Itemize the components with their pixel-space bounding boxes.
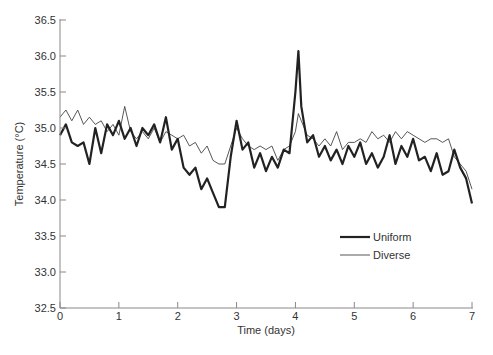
y-tick-label: 36.5 bbox=[35, 14, 56, 26]
legend-label-diverse: Diverse bbox=[373, 249, 410, 261]
x-tick-label: 4 bbox=[292, 310, 298, 322]
y-axis-title: Temperature (°C) bbox=[13, 122, 25, 206]
y-tick-label: 33.5 bbox=[35, 230, 56, 242]
x-tick-label: 5 bbox=[351, 310, 357, 322]
y-tick-label: 34.5 bbox=[35, 158, 56, 170]
x-tick-label: 3 bbox=[234, 310, 240, 322]
x-tick-label: 0 bbox=[57, 310, 63, 322]
y-tick-label: 36.0 bbox=[35, 50, 56, 62]
x-tick-label: 6 bbox=[410, 310, 416, 322]
temperature-line-chart: 32.533.033.534.034.535.035.536.036.5 012… bbox=[0, 0, 493, 355]
x-ticks: 01234567 bbox=[57, 302, 475, 322]
x-tick-label: 7 bbox=[469, 310, 475, 322]
x-tick-label: 1 bbox=[116, 310, 122, 322]
legend-label-uniform: Uniform bbox=[373, 231, 412, 243]
y-tick-label: 35.0 bbox=[35, 122, 56, 134]
y-tick-label: 35.5 bbox=[35, 86, 56, 98]
y-tick-label: 32.5 bbox=[35, 302, 56, 314]
series-line-uniform bbox=[60, 51, 472, 207]
plot-lines bbox=[60, 51, 472, 207]
y-tick-label: 33.0 bbox=[35, 266, 56, 278]
legend: Uniform Diverse bbox=[340, 231, 412, 261]
x-axis-title: Time (days) bbox=[237, 324, 295, 336]
x-tick-label: 2 bbox=[175, 310, 181, 322]
y-ticks: 32.533.033.534.034.535.035.536.036.5 bbox=[35, 14, 66, 314]
y-tick-label: 34.0 bbox=[35, 194, 56, 206]
